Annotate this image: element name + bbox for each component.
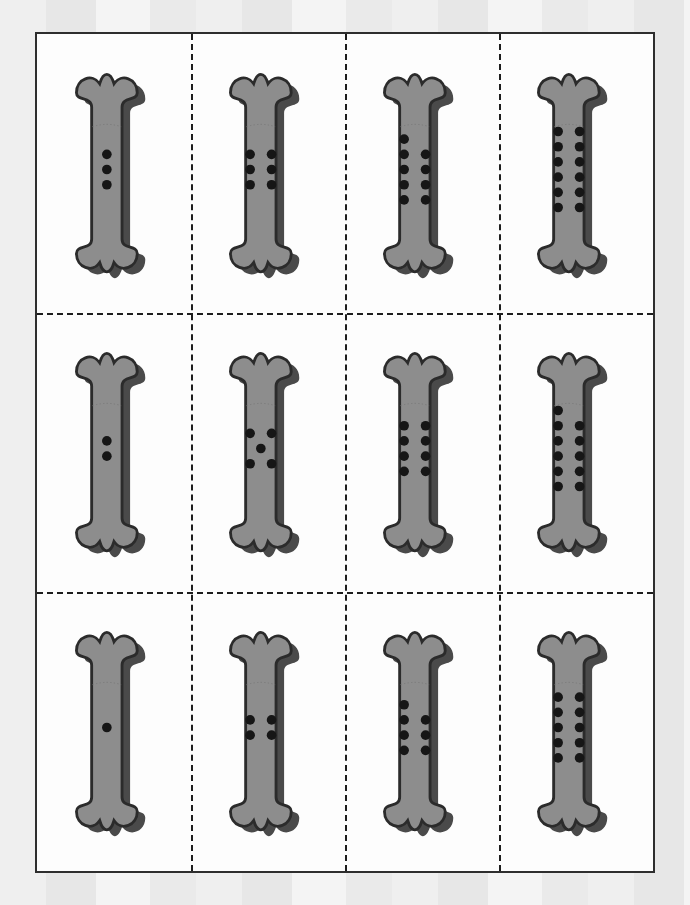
bone-dot: [399, 420, 409, 430]
bone-card-grid: [37, 34, 653, 871]
bone-dot: [399, 149, 409, 159]
bone-dot: [421, 195, 431, 205]
bone-dot: [102, 436, 112, 446]
bone-dot: [399, 699, 409, 709]
bone-dot: [421, 420, 431, 430]
bone-dot: [421, 745, 431, 755]
bone-dot: [399, 466, 409, 476]
bone-dot: [267, 179, 277, 189]
bone-dot: [575, 722, 585, 732]
bone-dot: [267, 730, 277, 740]
bone-card[interactable]: [191, 592, 345, 871]
bone-dot: [553, 436, 563, 446]
bone-dot: [421, 451, 431, 461]
bone-dot: [575, 481, 585, 491]
bone-dot: [575, 420, 585, 430]
bone-dot: [267, 164, 277, 174]
bone-dot: [575, 126, 585, 136]
bone-dot: [553, 187, 563, 197]
dog-bone-icon: [55, 608, 173, 856]
bone-dot: [553, 157, 563, 167]
bone-dot: [553, 722, 563, 732]
bone-dot: [575, 737, 585, 747]
bone-card[interactable]: [345, 592, 499, 871]
bone-dot: [102, 164, 112, 174]
bone-dot: [102, 179, 112, 189]
bone-card[interactable]: [499, 313, 653, 592]
bone-dot: [245, 179, 255, 189]
dog-bone-icon: [209, 608, 327, 856]
bone-dot: [575, 753, 585, 763]
bone-dot: [399, 179, 409, 189]
dog-bone-icon: [55, 50, 173, 298]
bone-dot: [421, 164, 431, 174]
bone-dot: [399, 436, 409, 446]
bone-dot: [399, 715, 409, 725]
dog-bone-icon: [209, 329, 327, 577]
bone-dot: [399, 195, 409, 205]
bone-dot: [245, 428, 255, 438]
bone-dot: [102, 451, 112, 461]
bone-card[interactable]: [499, 592, 653, 871]
bone-dot: [553, 172, 563, 182]
worksheet-sheet: [35, 32, 655, 873]
bone-dot: [553, 753, 563, 763]
bone-dot: [575, 451, 585, 461]
bone-dot: [245, 458, 255, 468]
dog-bone-icon: [55, 329, 173, 577]
bone-dot: [575, 692, 585, 702]
bone-dot: [575, 187, 585, 197]
bone-dot: [575, 202, 585, 212]
bone-dot: [553, 707, 563, 717]
bone-dot: [575, 157, 585, 167]
bone-card[interactable]: [499, 34, 653, 313]
bone-dot: [421, 436, 431, 446]
dog-bone-icon: [363, 608, 481, 856]
bone-dot: [399, 745, 409, 755]
bone-dot: [245, 149, 255, 159]
bone-dot: [421, 715, 431, 725]
bone-card[interactable]: [191, 313, 345, 592]
bone-dot: [399, 451, 409, 461]
bone-dot: [553, 126, 563, 136]
bone-dot: [575, 172, 585, 182]
bone-dot: [267, 458, 277, 468]
bone-dot: [399, 134, 409, 144]
bone-dot: [553, 141, 563, 151]
dog-bone-icon: [517, 50, 635, 298]
bone-dot: [575, 466, 585, 476]
bone-dot: [102, 149, 112, 159]
bone-dot: [421, 149, 431, 159]
bone-dot: [399, 730, 409, 740]
bone-dot: [245, 730, 255, 740]
bone-dot: [267, 428, 277, 438]
bone-card[interactable]: [37, 592, 191, 871]
bone-card[interactable]: [37, 34, 191, 313]
bone-dot: [421, 179, 431, 189]
bone-dot: [553, 481, 563, 491]
bone-dot: [553, 420, 563, 430]
bone-dot: [421, 730, 431, 740]
bone-dot: [553, 737, 563, 747]
bone-card[interactable]: [191, 34, 345, 313]
bone-dot: [267, 149, 277, 159]
dog-bone-icon: [363, 50, 481, 298]
bone-card[interactable]: [345, 34, 499, 313]
bone-dot: [399, 164, 409, 174]
bone-dot: [102, 722, 112, 732]
bone-dot: [553, 466, 563, 476]
bone-dot: [575, 707, 585, 717]
bone-card[interactable]: [37, 313, 191, 592]
bone-dot: [553, 405, 563, 415]
dog-bone-icon: [517, 608, 635, 856]
dog-bone-icon: [363, 329, 481, 577]
bone-dot: [245, 164, 255, 174]
bone-card[interactable]: [345, 313, 499, 592]
bone-dot: [575, 436, 585, 446]
bone-dot: [553, 451, 563, 461]
bone-dot: [553, 692, 563, 702]
dog-bone-icon: [517, 329, 635, 577]
bone-dot: [553, 202, 563, 212]
bone-dot: [421, 466, 431, 476]
bone-dot: [256, 443, 266, 453]
